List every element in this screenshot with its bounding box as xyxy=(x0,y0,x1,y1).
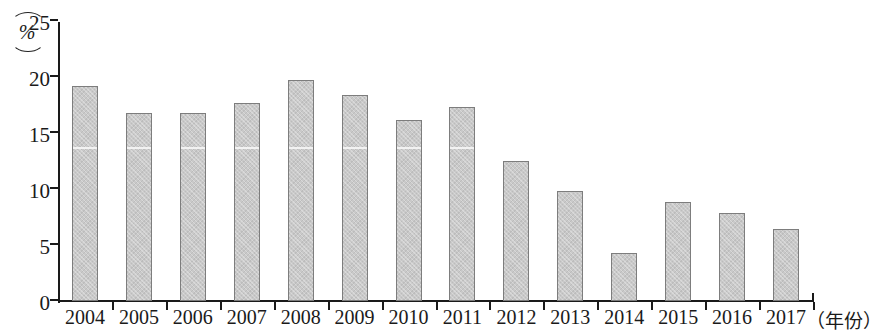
y-axis-tick xyxy=(50,243,58,245)
y-axis-tick-label: 25 xyxy=(16,13,50,34)
bar xyxy=(611,253,637,301)
bar-seam-line xyxy=(181,147,205,149)
plot-area: 0510152025 xyxy=(58,22,813,302)
bar xyxy=(503,161,529,301)
x-axis-end-cap xyxy=(812,293,814,302)
bar xyxy=(72,86,98,301)
bar xyxy=(557,191,583,301)
bar-seam-line xyxy=(450,147,474,149)
bar-seam-line xyxy=(73,147,97,149)
y-axis-tick-label: 5 xyxy=(16,237,50,258)
bar xyxy=(719,213,745,301)
bar-chart: % 0510152025 200420052006200720082009201… xyxy=(0,0,875,336)
bar xyxy=(288,80,314,301)
bar xyxy=(234,103,260,301)
x-axis-title: （年份） xyxy=(806,306,875,333)
y-axis-labels: 0510152025 xyxy=(10,22,50,303)
y-axis-tick-label: 15 xyxy=(16,125,50,146)
bar xyxy=(126,113,152,301)
bar xyxy=(449,107,475,301)
bar-seam-line xyxy=(397,147,421,149)
y-axis-tick-label: 20 xyxy=(16,69,50,90)
y-axis-line xyxy=(58,22,60,303)
x-axis-labels: 2004200520062007200820092010201120122013… xyxy=(58,306,818,334)
bar-seam-line xyxy=(127,147,151,149)
bar xyxy=(342,95,368,301)
bar-seam-line xyxy=(343,147,367,149)
y-axis-tick xyxy=(50,187,58,189)
y-axis-tick xyxy=(50,75,58,77)
bar-seam-line xyxy=(235,147,259,149)
y-axis-tick xyxy=(50,131,58,133)
bar xyxy=(396,120,422,301)
y-axis-tick xyxy=(50,19,58,21)
bar-seam-line xyxy=(289,147,313,149)
bar xyxy=(180,113,206,301)
y-axis-tick-label: 10 xyxy=(16,181,50,202)
bar xyxy=(665,202,691,301)
y-axis-tick xyxy=(50,299,58,301)
bar xyxy=(773,229,799,301)
y-axis-tick-label: 0 xyxy=(16,293,50,314)
